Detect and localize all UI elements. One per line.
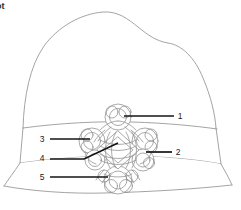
callout-4-label: 4: [40, 153, 45, 163]
callout-3-label: 3: [40, 134, 45, 144]
figure-root: ot: [0, 0, 241, 210]
callout-1-label: 1: [178, 111, 183, 121]
hat-band-right-side: [216, 128, 221, 164]
hat-diagram-svg: 1 2 3 4 5: [0, 0, 241, 210]
hat-band-left-side: [20, 128, 23, 163]
callout-5-label: 5: [40, 172, 45, 182]
callout-2-label: 2: [176, 147, 181, 157]
